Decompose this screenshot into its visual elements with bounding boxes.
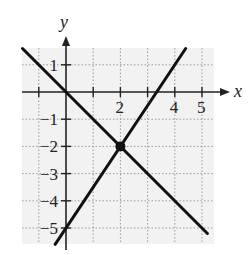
y-tick-label: −4 [40,192,59,211]
y-tick-label: −3 [40,165,58,184]
y-tick-label: −2 [40,137,58,156]
y-tick-label: 1 [50,56,59,75]
y-axis-arrow-icon [62,36,70,46]
chart: 2451−1−2−3−4−5 x y [0,0,251,255]
x-tick-label: 2 [115,98,124,117]
x-tick-label: 4 [170,98,179,117]
x-axis-arrow-icon [220,88,230,96]
y-tick-label: −5 [40,219,58,238]
y-axis-label: y [58,12,68,32]
y-tick-label: −1 [40,110,58,129]
intersection-point [115,141,125,151]
x-axis-label: x [233,81,242,101]
x-tick-label: 5 [197,98,206,117]
